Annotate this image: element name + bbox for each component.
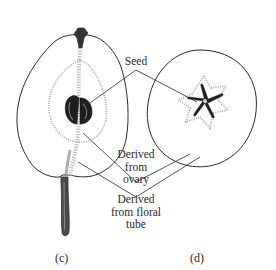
seed-label: Seed	[116, 55, 156, 68]
pear-stem	[61, 177, 69, 236]
derived-from-ovary-label: Derived from ovary	[108, 148, 164, 186]
panel-label-d: (d)	[190, 251, 204, 266]
fruit-anatomy-figure: Seed Derived from ovary Derived from flo…	[0, 0, 276, 270]
panel-label-c: (c)	[55, 251, 68, 266]
pear-calyx	[74, 28, 88, 48]
derived-from-floral-tube-label: Derived from floral tube	[104, 193, 168, 231]
pear-seeds	[65, 96, 92, 124]
